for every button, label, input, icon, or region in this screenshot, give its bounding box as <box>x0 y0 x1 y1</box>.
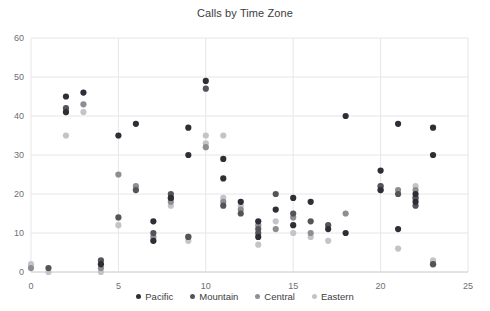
data-point[interactable] <box>395 191 401 197</box>
x-axis-tick-label: 5 <box>116 281 121 291</box>
data-point[interactable] <box>115 132 121 138</box>
legend-item-eastern[interactable]: Eastern <box>312 291 354 302</box>
data-point[interactable] <box>273 226 279 232</box>
data-point[interactable] <box>203 132 209 138</box>
data-point[interactable] <box>273 191 279 197</box>
x-axis-tick-label: 25 <box>463 281 473 291</box>
data-point[interactable] <box>273 207 279 213</box>
data-point[interactable] <box>430 125 436 131</box>
data-point[interactable] <box>115 214 121 220</box>
data-point[interactable] <box>290 222 296 228</box>
data-point[interactable] <box>28 265 34 271</box>
data-point[interactable] <box>255 218 261 224</box>
data-point[interactable] <box>412 199 418 205</box>
data-point[interactable] <box>203 86 209 92</box>
data-point[interactable] <box>203 78 209 84</box>
legend-label: Mountain <box>199 291 238 302</box>
legend-label: Eastern <box>321 291 354 302</box>
series-central <box>28 101 436 271</box>
data-point[interactable] <box>45 265 51 271</box>
x-axis-tick-label: 10 <box>201 281 211 291</box>
data-point[interactable] <box>395 226 401 232</box>
data-point[interactable] <box>343 230 349 236</box>
y-axis-tick-label: 30 <box>14 150 24 160</box>
data-point[interactable] <box>115 222 121 228</box>
legend-item-pacific[interactable]: Pacific <box>136 291 173 302</box>
data-point[interactable] <box>203 144 209 150</box>
data-point[interactable] <box>343 113 349 119</box>
data-point[interactable] <box>80 90 86 96</box>
legend-marker-icon <box>190 294 195 299</box>
x-axis-tick-label: 15 <box>288 281 298 291</box>
y-axis-tick-label: 20 <box>14 189 24 199</box>
data-point[interactable] <box>255 234 261 240</box>
data-point[interactable] <box>133 121 139 127</box>
data-point[interactable] <box>115 171 121 177</box>
y-axis-tick-label: 60 <box>14 33 24 43</box>
data-point[interactable] <box>185 234 191 240</box>
series-eastern <box>28 109 436 275</box>
legend-label: Central <box>264 291 295 302</box>
data-point[interactable] <box>220 175 226 181</box>
data-point[interactable] <box>395 246 401 252</box>
x-axis-tick-label: 20 <box>376 281 386 291</box>
data-point[interactable] <box>343 210 349 216</box>
data-point[interactable] <box>80 109 86 115</box>
data-point[interactable] <box>63 132 69 138</box>
chart-legend: PacificMountainCentralEastern <box>0 291 490 302</box>
y-axis-tick-label: 0 <box>19 267 24 277</box>
legend-marker-icon <box>255 294 260 299</box>
data-point[interactable] <box>378 187 384 193</box>
data-point[interactable] <box>290 195 296 201</box>
data-point[interactable] <box>290 230 296 236</box>
data-point[interactable] <box>325 226 331 232</box>
data-point[interactable] <box>150 218 156 224</box>
data-point[interactable] <box>185 152 191 158</box>
data-point[interactable] <box>220 132 226 138</box>
data-point[interactable] <box>168 195 174 201</box>
data-point[interactable] <box>412 191 418 197</box>
legend-marker-icon <box>312 294 317 299</box>
data-point[interactable] <box>325 238 331 244</box>
data-point[interactable] <box>308 218 314 224</box>
data-point[interactable] <box>98 261 104 267</box>
legend-marker-icon <box>136 294 141 299</box>
scatter-chart: Calls by Time Zone 010203040506005101520… <box>0 0 490 311</box>
data-point[interactable] <box>308 230 314 236</box>
data-point[interactable] <box>220 156 226 162</box>
legend-label: Pacific <box>145 291 173 302</box>
data-point[interactable] <box>220 203 226 209</box>
data-point[interactable] <box>430 152 436 158</box>
data-point[interactable] <box>150 230 156 236</box>
data-point[interactable] <box>273 218 279 224</box>
x-axis-tick-label: 0 <box>28 281 33 291</box>
data-point[interactable] <box>290 210 296 216</box>
data-point[interactable] <box>238 210 244 216</box>
data-point[interactable] <box>63 109 69 115</box>
data-point[interactable] <box>395 121 401 127</box>
data-point[interactable] <box>150 238 156 244</box>
data-point[interactable] <box>255 242 261 248</box>
data-point[interactable] <box>308 199 314 205</box>
y-axis-tick-label: 50 <box>14 72 24 82</box>
data-point[interactable] <box>133 187 139 193</box>
series-mountain <box>45 86 436 272</box>
data-point[interactable] <box>378 168 384 174</box>
data-point[interactable] <box>238 199 244 205</box>
data-point[interactable] <box>63 93 69 99</box>
y-axis-tick-label: 10 <box>14 228 24 238</box>
y-axis-tick-label: 40 <box>14 111 24 121</box>
data-point[interactable] <box>430 261 436 267</box>
plot-area: 01020304050600510152025 <box>0 0 490 311</box>
legend-item-central[interactable]: Central <box>255 291 295 302</box>
legend-item-mountain[interactable]: Mountain <box>190 291 238 302</box>
data-point[interactable] <box>80 101 86 107</box>
data-point[interactable] <box>185 125 191 131</box>
